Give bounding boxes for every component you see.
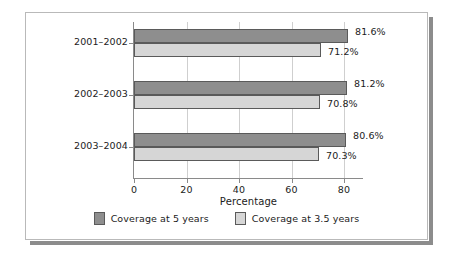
bar-0-series-1[interactable] — [134, 43, 321, 57]
category-label-2: 2003–2004 — [60, 140, 128, 151]
x-axis-line — [134, 178, 363, 179]
x-tick-label-60: 60 — [277, 184, 307, 195]
category-label-1: 2002–2003 — [60, 88, 128, 99]
bar-0-series-0[interactable] — [134, 29, 348, 43]
value-label-2-series-1: 70.3% — [326, 150, 357, 161]
value-label-1-series-0: 81.2% — [354, 78, 385, 89]
bar-2-series-1[interactable] — [134, 147, 319, 161]
x-tick-mark-40 — [239, 179, 240, 183]
value-label-2-series-0: 80.6% — [353, 130, 384, 141]
legend-swatch-icon-series-1 — [235, 212, 246, 225]
bar-1-series-0[interactable] — [134, 81, 347, 95]
value-label-1-series-1: 70.8% — [327, 98, 358, 109]
frame-shadow-bottom — [30, 241, 433, 245]
figure-root: 2001–20022002–20032003–2004 81.6%71.2%81… — [0, 0, 453, 258]
bar-1-series-1[interactable] — [134, 95, 320, 109]
frame-shadow-right — [429, 17, 433, 241]
legend-item-coverage-3-5-years[interactable]: Coverage at 3.5 years — [235, 212, 359, 225]
x-tick-label-0: 0 — [119, 184, 149, 195]
bar-2-series-0[interactable] — [134, 133, 346, 147]
x-tick-label-20: 20 — [172, 184, 202, 195]
category-label-0: 2001–2002 — [60, 36, 128, 47]
legend-item-coverage-5-years[interactable]: Coverage at 5 years — [94, 212, 209, 225]
legend-swatch-icon-series-0 — [94, 212, 105, 225]
legend-label-series-0: Coverage at 5 years — [111, 213, 209, 224]
x-tick-mark-80 — [344, 179, 345, 183]
x-tick-mark-20 — [187, 179, 188, 183]
value-label-0-series-0: 81.6% — [355, 26, 386, 37]
x-tick-label-80: 80 — [329, 184, 359, 195]
x-axis-title: Percentage — [134, 196, 363, 207]
x-tick-label-40: 40 — [224, 184, 254, 195]
x-tick-mark-60 — [292, 179, 293, 183]
legend-label-series-1: Coverage at 3.5 years — [252, 213, 359, 224]
value-label-0-series-1: 71.2% — [328, 46, 359, 57]
x-tick-mark-0 — [134, 179, 135, 183]
chart-legend: Coverage at 5 years Coverage at 3.5 year… — [25, 212, 428, 225]
